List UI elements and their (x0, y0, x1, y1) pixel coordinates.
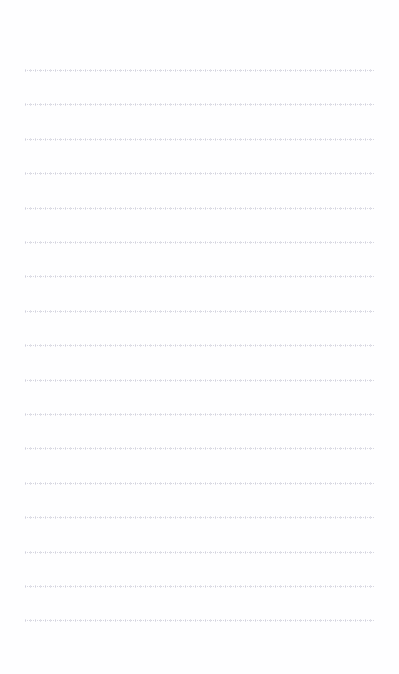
ruled-line (25, 173, 375, 174)
ruled-line (25, 414, 375, 415)
ruled-line (25, 311, 375, 312)
ruled-line (25, 70, 375, 71)
ruled-line (25, 242, 375, 243)
ruled-line (25, 620, 375, 621)
ruled-line-area (0, 0, 399, 674)
ruled-line (25, 208, 375, 209)
ruled-line (25, 380, 375, 381)
lined-paper-page (0, 0, 399, 674)
ruled-line (25, 586, 375, 587)
ruled-line (25, 448, 375, 449)
ruled-line (25, 139, 375, 140)
ruled-line (25, 276, 375, 277)
ruled-line (25, 104, 375, 105)
ruled-line (25, 517, 375, 518)
ruled-line (25, 552, 375, 553)
ruled-line (25, 483, 375, 484)
ruled-line (25, 345, 375, 346)
